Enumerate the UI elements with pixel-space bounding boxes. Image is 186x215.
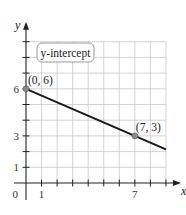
y-tick-label: 1 [14,161,20,173]
data-point [132,133,138,139]
data-points: (0, 6)(7, 3) [23,74,161,139]
grid [26,42,166,183]
x-tick-label: 7 [132,188,138,200]
x-tick-label: 1 [39,188,45,200]
data-point-label: (7, 3) [136,121,161,134]
y-axis-arrow-icon [23,22,29,30]
data-point [23,86,29,92]
x-axis-label: x [180,184,186,198]
data-line-segment [26,89,166,150]
origin-label: 0 [13,188,19,200]
y-intercept-callout: y-intercept [37,43,94,62]
callout-text: y-intercept [41,47,92,60]
y-tick-label: 3 [14,130,20,142]
line-chart: xy 171360 (0, 6)(7, 3) y-intercept [0,0,186,215]
data-point-label: (0, 6) [28,74,53,87]
ticks [23,42,166,187]
y-axis-label: y [14,18,21,32]
x-axis-arrow-icon [173,180,181,186]
y-tick-label: 6 [14,83,20,95]
data-line [26,89,166,150]
